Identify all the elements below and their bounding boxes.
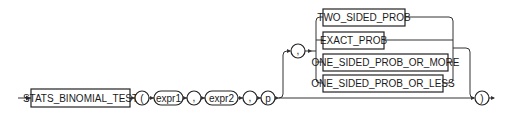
option-exact-prob: EXACT_PROB xyxy=(320,32,388,49)
open-paren-circle: ( xyxy=(135,91,149,105)
svg-text:EXACT_PROB: EXACT_PROB xyxy=(320,35,388,46)
svg-text:p: p xyxy=(265,93,271,104)
keyword-box: STATS_BINOMIAL_TEST xyxy=(23,89,138,107)
svg-text:): ) xyxy=(480,93,483,104)
optional-comma-circle: , xyxy=(291,44,305,58)
svg-text:ONE_SIDED_PROB_OR_LESS: ONE_SIDED_PROB_OR_LESS xyxy=(311,78,455,89)
svg-text:TWO_SIDED_PROB: TWO_SIDED_PROB xyxy=(317,12,411,23)
svg-text:,: , xyxy=(193,92,196,103)
svg-text:expr2: expr2 xyxy=(209,93,234,104)
option-one-sided-prob-or-less: ONE_SIDED_PROB_OR_LESS xyxy=(311,75,455,92)
expr2-oval: expr2 xyxy=(205,91,238,105)
svg-text:expr1: expr1 xyxy=(156,93,181,104)
close-paren-circle: ) xyxy=(475,91,489,105)
svg-text:STATS_BINOMIAL_TEST: STATS_BINOMIAL_TEST xyxy=(23,93,138,104)
option-two-sided-prob: TWO_SIDED_PROB xyxy=(317,9,411,26)
p-oval: p xyxy=(261,91,275,105)
svg-text:,: , xyxy=(249,92,252,103)
expr1-oval: expr1 xyxy=(154,91,183,105)
svg-text:ONE_SIDED_PROB_OR_MORE: ONE_SIDED_PROB_OR_MORE xyxy=(312,57,460,68)
option-one-sided-prob-or-more: ONE_SIDED_PROB_OR_MORE xyxy=(312,54,460,71)
comma-circle-2: , xyxy=(243,91,257,105)
end-arrow-icon xyxy=(491,96,495,100)
syntax-diagram: STATS_BINOMIAL_TEST ( expr1 , expr2 , p xyxy=(0,0,506,119)
svg-text:,: , xyxy=(297,45,300,56)
comma-circle-1: , xyxy=(187,91,201,105)
